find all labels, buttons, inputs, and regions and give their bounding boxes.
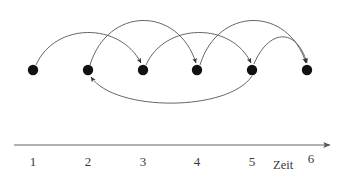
axis-tick-5: 5 [240,154,264,170]
edge-3-to-5 [146,32,251,65]
node-3[interactable] [138,65,148,75]
edges-group [36,20,307,103]
diagram-canvas [0,0,347,183]
node-6[interactable] [302,65,312,75]
temporal-arc-diagram: 1 2 3 4 5 6 Zeit [0,0,347,183]
edge-5-to-6 [254,37,307,64]
axis-name-label: Zeit [273,157,293,173]
node-1[interactable] [28,65,38,75]
axis-tick-1: 1 [21,154,45,170]
nodes-group [28,65,312,75]
axis-tick-3: 3 [131,154,155,170]
edge-1-to-3 [36,32,141,65]
edge-2-to-4 [90,20,196,65]
axis-tick-4: 4 [185,154,209,170]
axis-tick-2: 2 [76,154,100,170]
edge-5-to-2 [91,76,252,103]
node-2[interactable] [83,65,93,75]
node-4[interactable] [192,65,202,75]
edge-4-to-6 [200,20,306,65]
axis-tick-6: 6 [299,151,323,167]
node-5[interactable] [247,65,257,75]
